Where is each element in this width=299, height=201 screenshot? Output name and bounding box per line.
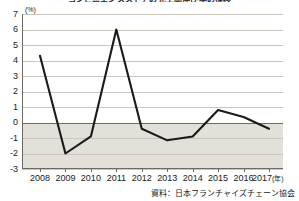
- y-tick-label: 1: [2, 103, 18, 112]
- y-tick-label: 4: [2, 56, 18, 65]
- y-tick-label: 3: [2, 72, 18, 81]
- x-tick-label: 2010: [78, 173, 104, 183]
- x-axis-unit-label: (年): [272, 175, 284, 182]
- x-tick-label: 2014: [180, 173, 206, 183]
- y-tick-label: 7: [2, 10, 18, 19]
- series-polyline: [40, 30, 269, 154]
- line-chart-figure: コンビニエンスストアの売上高伸び率の推移 (%) 76543210-1-2-3 …: [0, 0, 299, 201]
- y-tick-label: -2: [2, 149, 18, 158]
- x-tick-label: 2008: [27, 173, 53, 183]
- source-note: 資料：日本フランチャイズチェーン協会: [151, 189, 295, 198]
- y-tick-label: -1: [2, 134, 18, 143]
- y-axis-unit-label: (%): [25, 6, 36, 13]
- x-tick-label: 2015: [205, 173, 231, 183]
- data-series-line: [22, 14, 283, 169]
- x-tick-label: 2017(年): [252, 173, 296, 184]
- y-tick-label: 2: [2, 87, 18, 96]
- y-tick-label: 5: [2, 41, 18, 50]
- y-tick-label: 0: [2, 118, 18, 127]
- x-tick-label: 2012: [129, 173, 155, 183]
- x-tick-label: 2011: [103, 173, 129, 183]
- chart-title: コンビニエンスストアの売上高伸び率の推移: [0, 0, 299, 2]
- y-tick-label: -3: [2, 165, 18, 174]
- y-tick-label: 6: [2, 25, 18, 34]
- x-tick-label: 2009: [52, 173, 78, 183]
- x-tick-label: 2013: [154, 173, 180, 183]
